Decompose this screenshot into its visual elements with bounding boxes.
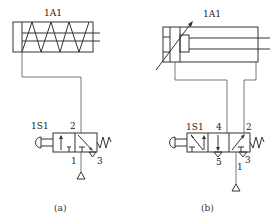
exhaust-icon	[89, 152, 96, 157]
diagram-b: 1A1 1S1 4 2 5 1 3	[156, 9, 270, 213]
valve-b-port-3: 3	[245, 155, 251, 165]
spring-icon	[22, 22, 89, 52]
valve-a-label: 1S1	[31, 121, 49, 131]
valve-b-port-1: 1	[237, 162, 243, 172]
valve-a-port-1: 1	[71, 156, 77, 166]
cylinder-b-label: 1A1	[203, 9, 221, 19]
valve-a-port-2: 2	[70, 121, 76, 131]
caption-a: (a)	[54, 203, 66, 213]
adjustable-cushion-icon	[156, 22, 192, 70]
valve-b-port-5: 5	[216, 157, 222, 167]
spring-icon	[250, 137, 264, 148]
valve-b: 1S1 4 2 5 1 3	[170, 122, 265, 172]
cylinder-b	[156, 21, 270, 70]
valve-a-port-3: 3	[97, 156, 103, 166]
valve-a: 1S1 2 1 3	[31, 121, 111, 166]
caption-b: (b)	[201, 203, 214, 213]
pressure-source-icon	[77, 172, 85, 179]
pneumatic-circuit-diagram: 1A1 1S1 2 1 3	[0, 0, 280, 223]
diagram-a: 1A1 1S1 2 1 3	[13, 8, 111, 213]
push-button-icon	[36, 137, 54, 148]
push-button-icon	[170, 137, 188, 148]
pressure-source-icon	[232, 184, 240, 191]
spring-icon	[97, 137, 111, 148]
cylinder-a-label: 1A1	[44, 8, 62, 18]
cylinder-a	[13, 22, 100, 52]
valve-b-port-4: 4	[216, 122, 222, 132]
valve-b-label: 1S1	[186, 122, 204, 132]
valve-b-port-2: 2	[246, 122, 252, 132]
